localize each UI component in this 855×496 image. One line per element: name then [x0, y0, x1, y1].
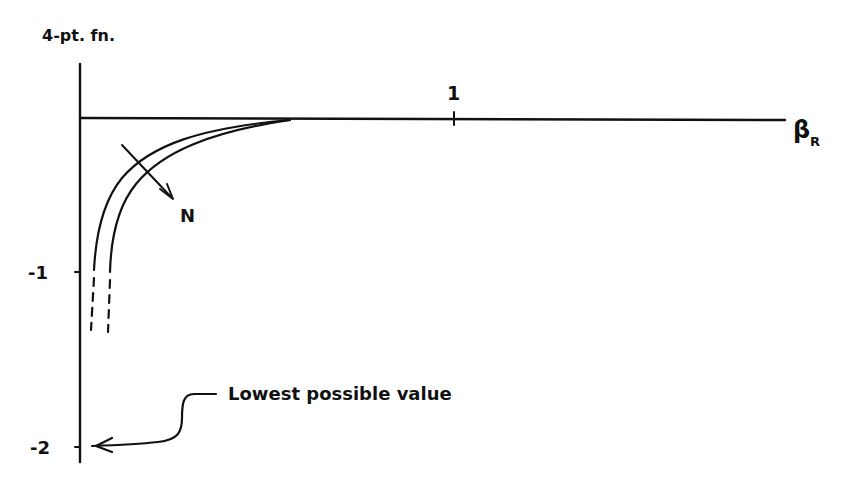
y-tick-label-neg2: -2	[30, 437, 50, 458]
y-axis-title: 4-pt. fn.	[42, 26, 115, 45]
x-axis-label-subscript: R	[810, 134, 820, 149]
curve-small-n	[94, 120, 290, 270]
x-axis-label: β	[793, 116, 810, 144]
x-axis	[80, 118, 785, 120]
x-tick-label-1: 1	[447, 82, 460, 104]
chart-canvas: 4-pt. fn. 1 β R -1 -2 N Lowest possible …	[0, 0, 855, 496]
lowest-value-label: Lowest possible value	[228, 383, 452, 404]
curve-small-n-extrapolation	[91, 278, 94, 330]
curve-large-n	[110, 120, 290, 272]
n-arrow-label: N	[180, 205, 195, 226]
y-tick-label-neg1: -1	[28, 262, 48, 283]
curve-large-n-extrapolation	[108, 280, 110, 332]
